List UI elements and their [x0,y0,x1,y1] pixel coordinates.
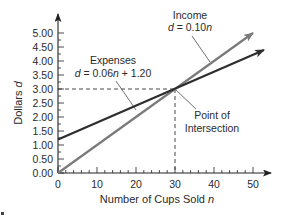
corner-mark [1,212,4,215]
svg-text:d = 0.10n: d = 0.10n [168,21,212,33]
intersection-annotation: Point of Intersection [185,109,239,134]
income-line [58,33,253,173]
svg-text:3.00: 3.00 [33,83,54,95]
svg-text:0.00: 0.00 [33,167,54,179]
expenses-annotation: Expenses d = 0.06n + 1.20 [75,54,152,79]
income-leader [192,36,210,62]
expenses-leader [116,81,136,110]
svg-text:Expenses: Expenses [90,54,136,66]
y-axis-title: Dollars d [12,80,24,124]
svg-text:3.50: 3.50 [33,69,54,81]
income-annotation: Income d = 0.10n [168,9,212,33]
svg-text:Intersection: Intersection [185,122,239,134]
svg-text:50: 50 [247,178,259,190]
svg-text:0.50: 0.50 [33,153,54,165]
svg-text:2.00: 2.00 [33,111,54,123]
y-ticks [58,33,64,173]
x-tick-labels: 0 10 20 30 40 50 [55,178,259,190]
svg-text:40: 40 [208,178,220,190]
svg-text:0: 0 [55,178,61,190]
svg-text:Point of: Point of [194,109,230,121]
svg-text:2.50: 2.50 [33,97,54,109]
x-axis-title: Number of Cups Sold n [100,193,214,205]
svg-text:1.00: 1.00 [33,139,54,151]
svg-text:Income: Income [173,9,208,21]
svg-text:5.00: 5.00 [33,27,54,39]
intersection-leader [176,90,196,109]
svg-text:d = 0.06n + 1.20: d = 0.06n + 1.20 [75,67,152,79]
x-ticks [58,167,253,173]
svg-text:1.50: 1.50 [33,125,54,137]
svg-text:4.50: 4.50 [33,41,54,53]
svg-text:10: 10 [91,178,103,190]
y-tick-labels: 0.00 0.50 1.00 1.50 2.00 2.50 3.00 3.50 … [33,27,54,179]
svg-text:4.00: 4.00 [33,55,54,67]
svg-text:20: 20 [130,178,142,190]
svg-text:30: 30 [169,178,181,190]
break-even-chart: 0.00 0.50 1.00 1.50 2.00 2.50 3.00 3.50 … [0,0,283,217]
